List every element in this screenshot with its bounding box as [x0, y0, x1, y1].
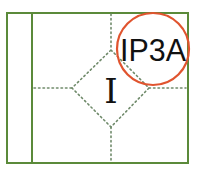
callout-label: IP3A [120, 33, 186, 68]
diagram-canvas: I IP3A [0, 0, 200, 180]
center-label: I [104, 71, 117, 111]
